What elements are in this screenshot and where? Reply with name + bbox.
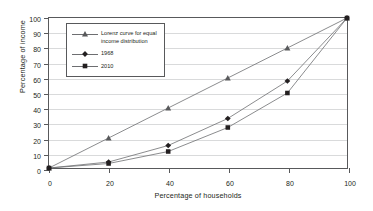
- legend-item: Lorenz curve for equal income distributi…: [72, 29, 157, 46]
- data-point-marker: [83, 64, 88, 69]
- data-point-marker: [165, 105, 171, 110]
- x-tick-label: 40: [166, 180, 174, 187]
- data-point-marker: [106, 135, 112, 140]
- x-tick: 20: [109, 168, 110, 173]
- data-point-marker: [166, 149, 171, 154]
- y-tick-label: 10: [33, 152, 41, 159]
- plot-area: 0102030405060708090100 020406080100 Lore…: [48, 17, 348, 169]
- x-tick: 100: [349, 168, 350, 173]
- data-point-marker: [165, 143, 171, 149]
- legend-label: 2010: [101, 62, 113, 70]
- chart-legend: Lorenz curve for equal income distributi…: [66, 23, 165, 77]
- data-point-marker: [82, 31, 88, 36]
- y-tick-label: 20: [33, 137, 41, 144]
- x-tick-label: 0: [48, 180, 52, 187]
- legend-label: 1968: [101, 49, 113, 57]
- data-point-marker: [226, 125, 231, 130]
- legend-label: Lorenz curve for equal income distributi…: [101, 29, 157, 46]
- y-tick-label: 100: [29, 16, 41, 23]
- y-tick-label: 80: [33, 46, 41, 53]
- lorenz-curve-chart: Percentage of income Percentage of house…: [0, 0, 373, 211]
- y-axis-title: Percentage of income: [18, 0, 27, 127]
- legend-triangle-icon: [72, 29, 98, 38]
- x-tick-label: 80: [286, 180, 294, 187]
- legend-diamond-icon: [72, 49, 98, 58]
- y-tick-label: 40: [33, 107, 41, 114]
- y-tick-label: 60: [33, 76, 41, 83]
- y-tick-label: 90: [33, 31, 41, 38]
- y-tick-label: 30: [33, 122, 41, 129]
- data-point-marker: [345, 16, 350, 21]
- y-tick-label: 0: [37, 168, 41, 175]
- y-tick-label: 70: [33, 61, 41, 68]
- data-point-marker: [225, 116, 231, 122]
- x-tick: 40: [169, 168, 170, 173]
- x-tick: 60: [229, 168, 230, 173]
- legend-item: 2010: [72, 62, 157, 71]
- y-tick-label: 50: [33, 92, 41, 99]
- x-tick: 80: [289, 168, 290, 173]
- x-tick-label: 20: [106, 180, 114, 187]
- data-point-marker: [82, 51, 88, 57]
- data-point-marker: [285, 91, 290, 96]
- data-point-marker: [106, 161, 111, 166]
- x-tick-label: 100: [344, 180, 356, 187]
- x-tick-label: 60: [226, 180, 234, 187]
- legend-item: 1968: [72, 49, 157, 58]
- x-axis-title: Percentage of households: [38, 191, 358, 200]
- legend-square-icon: [72, 62, 98, 71]
- data-point-marker: [47, 166, 52, 171]
- data-point-marker: [225, 75, 231, 80]
- data-point-marker: [284, 45, 290, 50]
